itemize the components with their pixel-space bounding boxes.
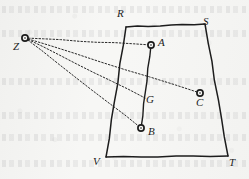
quadrilateral-rstv xyxy=(106,24,228,157)
side-TV xyxy=(106,156,228,157)
vertex-label-T: T xyxy=(229,157,235,168)
point-center-B xyxy=(140,127,142,129)
segment-AB xyxy=(141,45,151,128)
vertex-label-V: V xyxy=(93,156,100,167)
point-label-A: A xyxy=(158,37,165,48)
side-VR xyxy=(106,27,126,157)
geometry-figure: R S T V Z A B C G xyxy=(0,0,249,179)
side-RS xyxy=(126,24,205,27)
side-ST xyxy=(205,24,228,156)
ray-ZC xyxy=(25,38,200,93)
diagram-canvas xyxy=(0,0,249,179)
point-label-C: C xyxy=(196,97,203,108)
point-center-A xyxy=(150,44,152,46)
point-label-Z: Z xyxy=(13,41,19,52)
segment-group xyxy=(141,45,151,128)
ray-ZG xyxy=(25,38,145,98)
point-center-Z xyxy=(24,37,26,39)
vertex-label-S: S xyxy=(203,16,209,27)
ray-ZB xyxy=(25,38,141,128)
point-center-C xyxy=(199,92,201,94)
ray-ZA xyxy=(25,38,151,45)
point-label-B: B xyxy=(148,126,155,137)
vertex-label-R: R xyxy=(117,8,124,19)
point-label-G: G xyxy=(146,94,154,105)
